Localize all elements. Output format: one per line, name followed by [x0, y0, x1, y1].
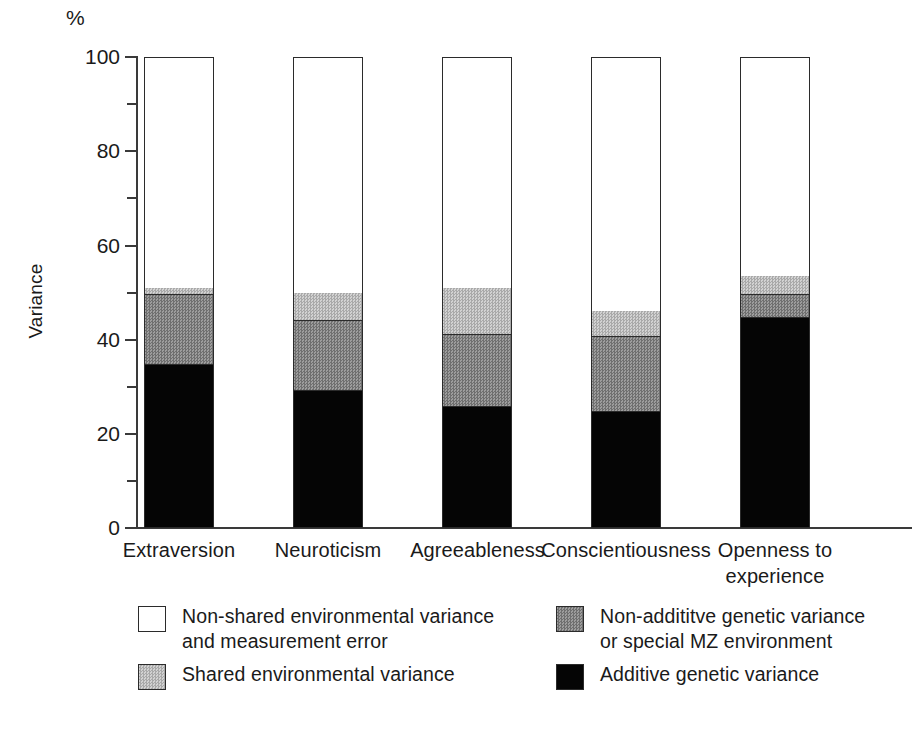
y-tick-0	[125, 527, 136, 529]
chart-legend: Non-shared environmental variance and me…	[138, 604, 908, 722]
y-tick-minor-30	[127, 386, 136, 388]
y-tick-label-20: 20	[60, 423, 120, 444]
bar-segment-nonshared	[443, 58, 511, 288]
y-tick-100	[125, 56, 136, 58]
bar-segment-nonshared	[145, 58, 213, 288]
bar-extraversion[interactable]	[144, 57, 214, 528]
bar-agreeableness[interactable]	[442, 57, 512, 528]
bar-segment-additive	[145, 365, 213, 527]
bar-segment-additive	[294, 391, 362, 527]
bar-segment-shared	[145, 288, 213, 295]
y-tick-40	[125, 339, 136, 341]
bar-segment-nonshared	[294, 58, 362, 293]
y-tick-minor-10	[127, 480, 136, 482]
y-axis-unit-label: %	[66, 6, 85, 30]
legend-label-nonshared: Non-shared environmental variance and me…	[182, 604, 494, 654]
bar-segment-nonadditive	[443, 335, 511, 408]
y-axis-title: Variance	[25, 231, 47, 371]
legend-label-shared: Shared environmental variance	[182, 662, 455, 687]
y-tick-label-0: 0	[60, 517, 120, 538]
bar-segment-nonadditive	[294, 321, 362, 391]
bar-segment-shared	[443, 288, 511, 335]
legend-item-shared[interactable]: Shared environmental variance	[138, 662, 558, 690]
y-tick-60	[125, 245, 136, 247]
y-tick-label-60: 60	[60, 235, 120, 256]
bar-openness-to-experience[interactable]	[740, 57, 810, 528]
x-axis-label-extraversion: Extraversion	[109, 537, 249, 563]
bar-segment-nonadditive	[741, 295, 809, 318]
y-tick-minor-70	[127, 197, 136, 199]
bar-segment-nonshared	[592, 58, 660, 311]
x-axis-label-conscientiousness: Conscientiousness	[541, 537, 711, 563]
plot-area: % Variance 100 80 60 40 20 0	[0, 0, 922, 734]
legend-swatch-nonshared-icon	[138, 606, 166, 632]
y-tick-20	[125, 433, 136, 435]
legend-label-nonadditive: Non-addititve genetic variance or specia…	[600, 604, 865, 654]
bar-segment-shared	[592, 311, 660, 337]
legend-swatch-additive-icon	[556, 664, 584, 690]
y-tick-label-100: 100	[60, 46, 120, 67]
y-tick-80	[125, 150, 136, 152]
bar-segment-nonadditive	[145, 295, 213, 365]
x-axis-label-openness-to-experience: Openness to experience	[705, 537, 845, 589]
x-axis-label-neuroticism: Neuroticism	[258, 537, 398, 563]
legend-swatch-nonadditive-icon	[556, 606, 584, 632]
y-tick-label-40: 40	[60, 329, 120, 350]
bar-segment-nonadditive	[592, 337, 660, 412]
legend-label-additive: Additive genetic variance	[600, 662, 819, 687]
chart-figure: % Variance 100 80 60 40 20 0	[0, 0, 922, 734]
x-axis-label-agreeableness: Agreeableness	[400, 537, 555, 563]
legend-item-nonshared[interactable]: Non-shared environmental variance and me…	[138, 604, 558, 654]
bar-conscientiousness[interactable]	[591, 57, 661, 528]
y-tick-minor-90	[127, 103, 136, 105]
bar-segment-shared	[294, 293, 362, 321]
bar-segment-nonshared	[741, 58, 809, 276]
bar-segment-additive	[443, 407, 511, 527]
legend-item-nonadditive[interactable]: Non-addititve genetic variance or specia…	[556, 604, 908, 654]
legend-column-left: Non-shared environmental variance and me…	[138, 604, 558, 698]
bar-neuroticism[interactable]	[293, 57, 363, 528]
bar-segment-additive	[741, 318, 809, 527]
y-axis-line	[136, 56, 138, 528]
legend-column-right: Non-addititve genetic variance or specia…	[556, 604, 908, 698]
legend-item-additive[interactable]: Additive genetic variance	[556, 662, 908, 690]
y-tick-label-80: 80	[60, 140, 120, 161]
bar-segment-additive	[592, 412, 660, 527]
bar-segment-shared	[741, 276, 809, 295]
legend-swatch-shared-icon	[138, 664, 166, 690]
y-tick-minor-50	[127, 292, 136, 294]
